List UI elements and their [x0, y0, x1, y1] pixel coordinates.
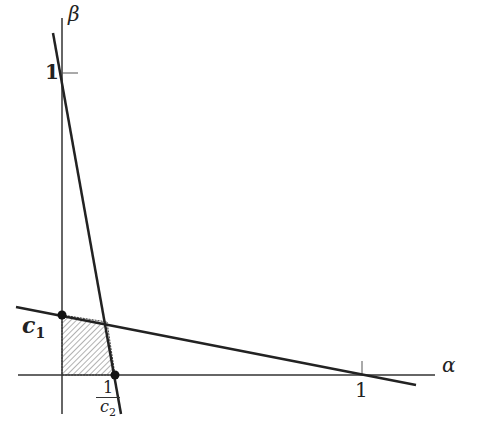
c1-point	[58, 311, 67, 320]
c1-subscript: 1	[35, 325, 45, 341]
c1-label: c1	[22, 312, 45, 341]
c2-fraction: 1 c2	[96, 380, 120, 421]
beta-label: β	[68, 2, 80, 26]
alpha-one-label: 1	[355, 378, 368, 402]
beta-one-label: 1	[45, 60, 59, 84]
c1-text: c	[22, 312, 35, 338]
c2-numerator: 1	[96, 380, 120, 396]
c2-denominator: c2	[96, 399, 120, 421]
feasible-region-diagram	[0, 0, 477, 434]
alpha-label: α	[442, 353, 456, 377]
